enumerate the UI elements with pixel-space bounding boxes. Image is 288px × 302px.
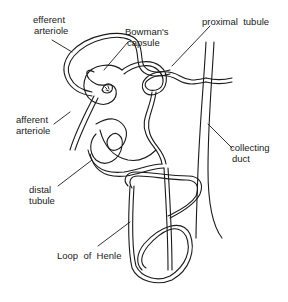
leader-distal (58, 160, 92, 186)
leader-henle (98, 222, 130, 246)
label-loop-of-henle: Loop of Henle (57, 250, 121, 261)
leader-efferent (52, 40, 72, 52)
distal-tubule (88, 119, 164, 176)
label-afferent-arteriole: afferent arteriole (16, 114, 50, 136)
leader-afferent (54, 112, 70, 124)
label-proximal-tubule: proximal tubule (202, 16, 269, 27)
leader-proximal (172, 26, 210, 66)
label-collecting-duct: collecting duct (230, 142, 270, 164)
afferent-arteriole (70, 96, 98, 150)
label-efferent-arteriole: efferent arteriole (33, 14, 68, 36)
collecting-duct (196, 42, 232, 238)
label-distal-tubule: distal tubule (29, 184, 55, 206)
bowmans-capsule (84, 65, 122, 104)
loop-of-henle (125, 168, 201, 283)
proximal-tubule (122, 62, 206, 164)
leader-collecting (208, 124, 232, 148)
label-bowmans-capsule: Bowman's capsule (125, 26, 169, 48)
nephron-diagram: efferent arteriole Bowman's capsule prox… (0, 0, 288, 302)
